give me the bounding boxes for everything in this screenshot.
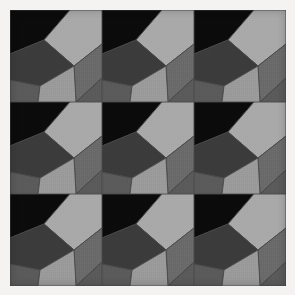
tile-pattern-svg	[10, 194, 102, 286]
tile-pattern-svg	[194, 194, 286, 286]
tile-pattern-svg	[102, 10, 194, 102]
tile-r1c2	[102, 10, 194, 102]
tile-pattern-svg	[102, 102, 194, 194]
tile-pattern-svg	[10, 102, 102, 194]
tile-pattern-svg	[102, 194, 194, 286]
tile-r1c3	[194, 10, 286, 102]
artwork-plate	[10, 10, 286, 286]
tile-r2c3	[194, 102, 286, 194]
tile-r2c2	[102, 102, 194, 194]
tile-pattern-svg	[10, 10, 102, 102]
tile-r2c1	[10, 102, 102, 194]
tile-pattern-svg	[194, 10, 286, 102]
tile-pattern-svg	[194, 102, 286, 194]
artwork-canvas	[0, 0, 295, 295]
tile-grid	[10, 10, 286, 286]
tile-r3c2	[102, 194, 194, 286]
tile-r3c3	[194, 194, 286, 286]
tile-r3c1	[10, 194, 102, 286]
tile-r1c1	[10, 10, 102, 102]
